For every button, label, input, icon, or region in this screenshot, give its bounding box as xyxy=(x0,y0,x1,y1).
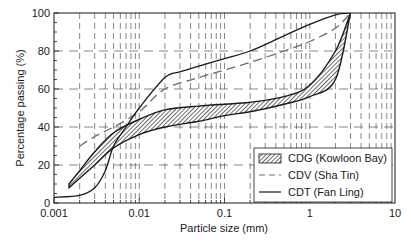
legend: CDG (Kowloon Bay) CDV (Sha Tin) CDT (Fan… xyxy=(254,148,392,202)
y-tick-label: 80 xyxy=(38,45,50,57)
y-axis-label: Percentage passing (%) xyxy=(14,49,26,166)
x-tick-label: 0.1 xyxy=(217,207,232,219)
y-tick-label: 60 xyxy=(38,83,50,95)
y-tick-label: 20 xyxy=(38,159,50,171)
x-tick-label: 0.01 xyxy=(129,207,150,219)
x-tick-label: 0.001 xyxy=(40,207,68,219)
grading-chart: 0204060801000.0010.010.1110 Percentage p… xyxy=(0,0,411,246)
legend-label-cdg: CDG (Kowloon Bay) xyxy=(288,152,387,164)
legend-label-cdt: CDT (Fan Ling) xyxy=(288,186,364,198)
legend-hatch-swatch-icon xyxy=(259,154,281,163)
legend-label-cdv: CDV (Sha Tin) xyxy=(288,169,359,181)
y-tick-label: 100 xyxy=(32,7,50,19)
x-axis-label: Particle size (mm) xyxy=(180,222,268,234)
x-tick-label: 1 xyxy=(307,207,313,219)
y-tick-label: 40 xyxy=(38,121,50,133)
x-tick-label: 10 xyxy=(389,207,401,219)
